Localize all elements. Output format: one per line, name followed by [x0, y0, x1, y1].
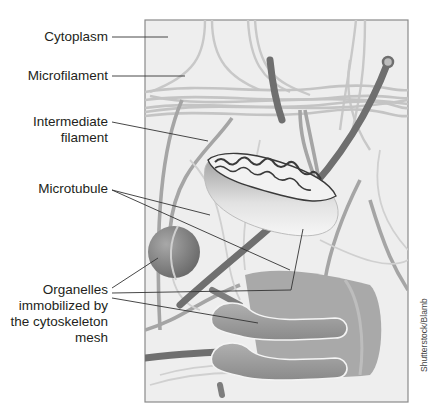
label-organelles-line1: Organelles: [0, 282, 108, 298]
cytoskeleton-illustration: [0, 0, 440, 417]
label-microfilament: Microfilament: [8, 68, 108, 84]
label-organelles: Organelles immobilized by the cytoskelet…: [0, 282, 108, 346]
label-intermediate-line1: Intermediate: [8, 114, 108, 130]
image-credit: Shutterstock/Blamb: [419, 298, 429, 372]
label-organelles-line3: the cytoskeleton: [0, 314, 108, 330]
label-organelles-line4: mesh: [0, 330, 108, 346]
label-organelles-line2: immobilized by: [0, 298, 108, 314]
label-intermediate-line2: filament: [8, 130, 108, 146]
label-intermediate-filament: Intermediate filament: [8, 114, 108, 146]
label-cytoplasm: Cytoplasm: [18, 29, 108, 45]
label-microtubule: Microtubule: [8, 181, 108, 197]
